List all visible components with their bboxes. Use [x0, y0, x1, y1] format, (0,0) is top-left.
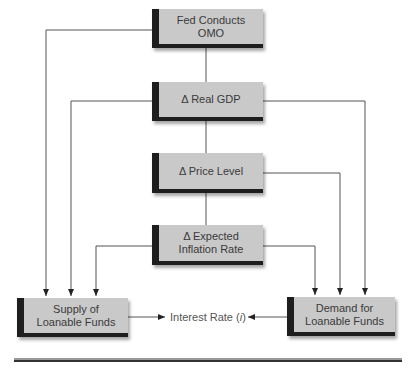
node-supply-loanable-funds: Supply of Loanable Funds: [17, 298, 128, 337]
flow-diagram: Fed Conducts OMO Δ Real GDP Δ Price Leve…: [0, 0, 416, 370]
node-price-level: Δ Price Level: [152, 153, 263, 193]
node-label-line2: Loanable Funds: [33, 316, 120, 329]
node-label: Δ Price Level: [175, 165, 247, 178]
node-label: Fed Conducts OMO: [159, 14, 263, 40]
interest-rate-label: Interest Rate (i): [170, 311, 246, 324]
node-demand-loanable-funds: Demand for Loanable Funds: [287, 297, 395, 336]
node-real-gdp: Δ Real GDP: [152, 82, 263, 121]
node-label: Δ Real GDP: [177, 93, 244, 106]
bottom-rule-dark: [14, 360, 402, 362]
interest-rate-prefix: Interest Rate (: [170, 311, 240, 323]
node-label-line2: Inflation Rate: [175, 243, 248, 256]
node-label-line1: Supply of: [49, 303, 103, 316]
node-label-line1: Δ Expected: [179, 230, 243, 243]
node-fed-omo: Fed Conducts OMO: [152, 9, 263, 48]
node-label-line2: Loanable Funds: [301, 315, 388, 328]
node-label-line1: Demand for: [312, 302, 377, 315]
node-expected-inflation: Δ Expected Inflation Rate: [152, 225, 263, 265]
interest-rate-suffix: ): [242, 311, 246, 323]
